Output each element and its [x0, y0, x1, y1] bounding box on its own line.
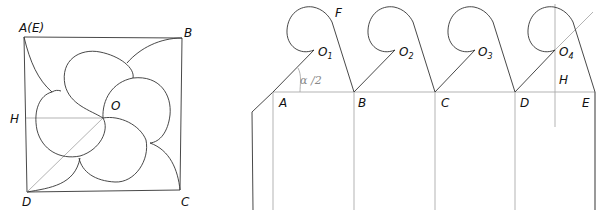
petal-bottom — [79, 117, 147, 182]
diagram-canvas: A(E) B C D H O F α /2 A B C — [0, 0, 603, 221]
label-H: H — [559, 73, 568, 87]
teardrop-2 — [354, 7, 435, 92]
label-angle: α /2 — [300, 74, 322, 87]
label-O3: O3 — [478, 45, 493, 61]
label-B: B — [358, 96, 366, 110]
label-C: C — [181, 195, 190, 209]
outer-left-edge — [252, 92, 273, 210]
cusp-A — [24, 37, 52, 92]
petal-left — [36, 92, 105, 157]
cusp-B — [127, 38, 182, 63]
label-B: B — [184, 26, 192, 40]
label-O2: O2 — [399, 45, 414, 61]
label-A-E: A(E) — [18, 21, 44, 35]
label-D: D — [520, 96, 529, 110]
petal-top — [64, 51, 133, 118]
cusp-D — [27, 158, 80, 192]
label-E: E — [582, 96, 590, 110]
label-F: F — [335, 6, 343, 20]
label-O4: O4 — [559, 45, 574, 61]
label-A: A — [278, 96, 287, 110]
teardrop-3 — [435, 7, 515, 92]
label-D: D — [22, 195, 31, 209]
right-figure: F α /2 A B C D E H O1 O2 O3 O4 — [252, 4, 595, 210]
label-H: H — [10, 112, 19, 126]
left-figure: A(E) B C D H O — [10, 21, 192, 209]
label-O: O — [111, 99, 120, 113]
cusp-C — [150, 143, 180, 190]
label-O1: O1 — [318, 45, 333, 61]
label-C: C — [441, 96, 450, 110]
petal-left-inner — [52, 90, 61, 92]
